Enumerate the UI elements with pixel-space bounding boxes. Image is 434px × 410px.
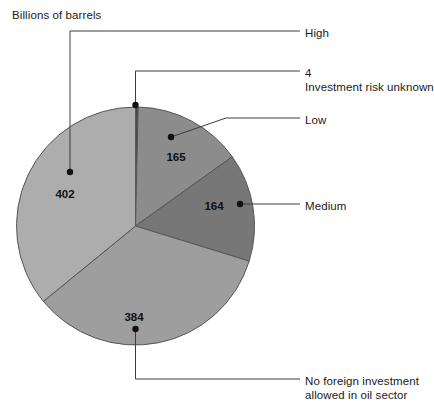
leader-dot-high [67, 169, 73, 175]
pie-slices-group [16, 107, 254, 345]
callout-label-nofi_2: allowed in oil sector [305, 388, 407, 403]
leader-dot-no-foreign-investment [132, 326, 138, 332]
callout-label-medium: Medium [305, 199, 347, 214]
slice-value-no-foreign-investment: 384 [124, 311, 143, 323]
callout-label-high: High [305, 26, 329, 41]
callout-label-unknown_sub: Investment risk unknown [305, 80, 434, 95]
slice-value-medium: 164 [204, 200, 223, 212]
slice-value-low: 165 [166, 151, 185, 163]
callout-label-unknown: 4 [305, 66, 312, 81]
callout-label-low: Low [305, 113, 326, 128]
slice-value-high: 402 [55, 188, 74, 200]
leader-line-unknown [136, 71, 301, 105]
leader-dot-low [168, 134, 174, 140]
leader-dot-unknown [132, 102, 138, 108]
leader-dot-medium [237, 201, 243, 207]
callout-label-nofi_1: No foreign investment [305, 374, 419, 389]
chart-unit-label: Billions of barrels [12, 9, 101, 21]
